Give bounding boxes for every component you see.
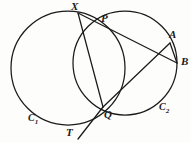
geometry-diagram: X P A B Q T C1 C2 — [0, 0, 191, 143]
point-label-b: B — [181, 56, 188, 67]
segment-q-to-a — [103, 43, 170, 107]
point-label-q: Q — [104, 109, 112, 120]
segment-x-to-b — [78, 13, 177, 63]
circle-label-c1: C1 — [28, 113, 38, 126]
point-label-p: P — [101, 13, 108, 24]
circle-label-c1-base: C — [28, 112, 35, 123]
point-label-a: A — [169, 29, 176, 40]
point-label-t: T — [66, 127, 73, 138]
circle-label-c2-base: C — [159, 101, 166, 112]
circle-label-c2-subscript: 2 — [166, 107, 170, 115]
circle-label-c1-subscript: 1 — [35, 118, 39, 126]
point-label-x: X — [71, 1, 78, 12]
circle-label-c2: C2 — [159, 102, 169, 115]
